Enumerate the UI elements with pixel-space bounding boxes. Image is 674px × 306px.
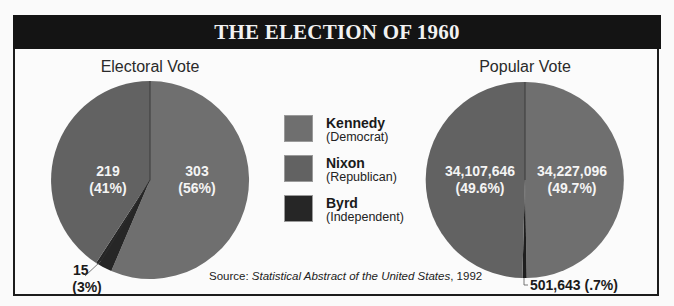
legend-name: Byrd — [326, 195, 358, 211]
electoral-byrd-pct: (3%) — [67, 279, 107, 296]
electoral-kennedy-pct: (56%) — [172, 180, 222, 197]
legend-party: (Democrat) — [326, 130, 389, 144]
legend-swatch-nixon — [284, 155, 313, 182]
popular-byrd-label: 501,643 (.7%) — [530, 277, 618, 294]
electoral-nixon-pct: (41%) — [83, 180, 133, 197]
legend-name: Nixon — [326, 155, 365, 171]
popular-nixon-label: 34,107,646 (49.6%) — [438, 163, 522, 197]
source-title: Statistical Abstract of the United State… — [252, 270, 450, 282]
popular-nixon-value: 34,107,646 — [438, 163, 522, 180]
popular-kennedy-value: 34,227,096 — [530, 163, 614, 180]
legend-swatch-kennedy — [284, 115, 313, 142]
popular-nixon-pct: (49.6%) — [438, 180, 522, 197]
legend-party: (Independent) — [326, 210, 404, 224]
popular-kennedy-label: 34,227,096 (49.7%) — [530, 163, 614, 197]
source-year: , 1992 — [450, 270, 482, 282]
legend-swatch-byrd — [284, 195, 313, 222]
source-prefix: Source: — [209, 270, 252, 282]
source-note: Source: Statistical Abstract of the Unit… — [209, 270, 482, 282]
electoral-kennedy-label: 303 (56%) — [172, 163, 222, 197]
legend-name: Kennedy — [326, 115, 385, 131]
electoral-kennedy-value: 303 — [172, 163, 222, 180]
electoral-byrd-label: 15 (3%) — [67, 262, 107, 296]
popular-kennedy-pct: (49.7%) — [530, 180, 614, 197]
electoral-nixon-label: 219 (41%) — [83, 163, 133, 197]
pie-charts — [0, 0, 674, 306]
popular-byrd-leader-line — [524, 278, 528, 285]
electoral-nixon-value: 219 — [83, 163, 133, 180]
legend-party: (Republican) — [326, 170, 397, 184]
electoral-byrd-value: 15 — [67, 262, 107, 279]
